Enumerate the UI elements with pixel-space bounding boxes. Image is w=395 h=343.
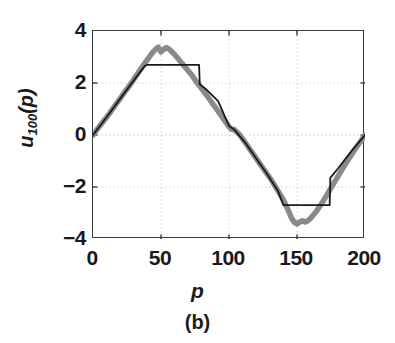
y-axis-title: u100(p) bbox=[16, 58, 36, 178]
x-axis-tick-labels: 050100150200 bbox=[0, 247, 395, 275]
y-tick-label: −4 bbox=[40, 227, 86, 248]
y-tick-label: 4 bbox=[40, 19, 86, 40]
x-tick-label: 100 bbox=[211, 247, 245, 268]
chart-canvas bbox=[93, 31, 365, 239]
plot-area bbox=[92, 30, 364, 238]
x-tick-label: 200 bbox=[347, 247, 381, 268]
x-tick-label: 0 bbox=[86, 247, 97, 268]
y-tick-label: 2 bbox=[40, 71, 86, 92]
gridlines bbox=[93, 31, 365, 239]
y-axis-title-base: u bbox=[15, 136, 37, 148]
figure-caption: (b) bbox=[0, 312, 395, 332]
y-axis-title-subscript: 100 bbox=[25, 114, 40, 136]
y-axis-title-arg: (p) bbox=[15, 88, 37, 114]
x-tick-label: 50 bbox=[149, 247, 171, 268]
x-tick-label: 150 bbox=[279, 247, 313, 268]
y-tick-label: −2 bbox=[40, 175, 86, 196]
y-tick-label: 0 bbox=[40, 123, 86, 144]
figure-panel-b: −4−2024 050100150200 u100(p) p (b) bbox=[0, 0, 395, 343]
x-axis-title: p bbox=[0, 280, 395, 301]
